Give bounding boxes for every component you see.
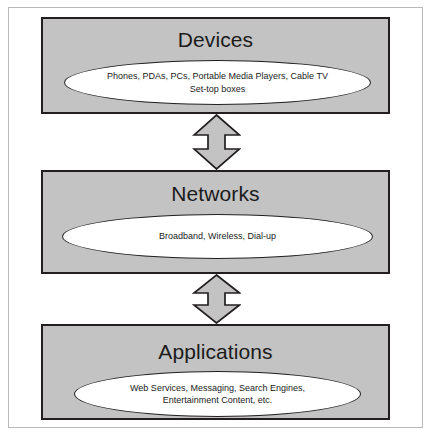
- layer-title-applications: Applications: [43, 341, 388, 362]
- diagram-canvas: Devices Phones, PDAs, PCs, Portable Medi…: [0, 0, 432, 437]
- layer-ellipse-networks: Broadband, Wireless, Dial-up: [62, 214, 373, 259]
- layer-items-devices: Phones, PDAs, PCs, Portable Media Player…: [101, 70, 334, 95]
- layer-title-networks: Networks: [43, 183, 388, 204]
- layer-box-applications: Applications Web Services, Messaging, Se…: [41, 324, 390, 420]
- layer-box-networks: Networks Broadband, Wireless, Dial-up: [41, 170, 390, 274]
- connector-arrow-devices-networks: [192, 114, 241, 170]
- layer-title-devices: Devices: [43, 29, 388, 50]
- layer-ellipse-applications: Web Services, Messaging, Search Engines,…: [74, 371, 361, 417]
- layer-box-devices: Devices Phones, PDAs, PCs, Portable Medi…: [41, 17, 390, 114]
- layer-ellipse-devices: Phones, PDAs, PCs, Portable Media Player…: [64, 60, 371, 105]
- layer-items-networks: Broadband, Wireless, Dial-up: [153, 230, 282, 243]
- connector-arrow-networks-applications: [192, 274, 241, 324]
- layer-items-applications: Web Services, Messaging, Search Engines,…: [124, 382, 311, 407]
